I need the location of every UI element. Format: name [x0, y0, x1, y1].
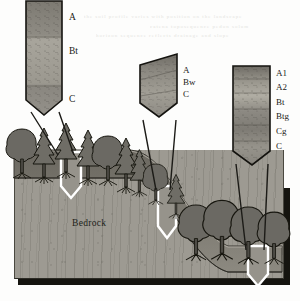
bleed-text-line: catena toposequence pedon solum [150, 24, 249, 29]
horizon-label: Btg [276, 112, 289, 121]
summit-soil-profile[interactable]: A Bt C [25, 0, 63, 118]
backslope-soil-profile[interactable]: A Bw C [139, 53, 179, 123]
pit-summit[interactable] [58, 152, 84, 206]
pit-footslope-shaft [248, 246, 268, 286]
summit-profile-texture [26, 1, 62, 115]
footslope-profile-texture [233, 66, 270, 165]
horizon-label: C [183, 90, 189, 99]
bleed-text-line: horizon sequence reflects drainage and s… [96, 33, 230, 38]
pit-summit-shaft [61, 152, 81, 198]
footslope-horizon-labels: A1 A2 Bt Btg Cg C [276, 65, 300, 169]
pit-footslope[interactable] [245, 246, 271, 294]
backslope-horizon-labels: A Bw C [183, 53, 217, 123]
horizon-label: A1 [276, 69, 287, 78]
horizon-label: C [276, 142, 282, 151]
horizon-label: Cg [276, 127, 287, 136]
horizon-label: Bw [183, 78, 196, 87]
summit-horizon-labels: A Bt C [69, 0, 103, 118]
pit-backslope[interactable] [155, 186, 179, 246]
footslope-soil-profile[interactable]: A1 A2 Bt Btg Cg C [232, 65, 272, 169]
horizon-label: Bt [276, 98, 285, 107]
landscape-block: Bedrock [14, 150, 286, 288]
horizon-label: A [183, 66, 190, 75]
horizon-label: C [69, 95, 75, 105]
horizon-label: A [69, 13, 76, 23]
horizon-label: A2 [276, 83, 287, 92]
bleed-text-line: the soil profile varies with position on… [84, 14, 242, 19]
figure-canvas: the soil profile varies with position on… [0, 0, 300, 301]
pit-backslope-shaft [158, 186, 176, 238]
horizon-label: Bt [69, 47, 78, 57]
